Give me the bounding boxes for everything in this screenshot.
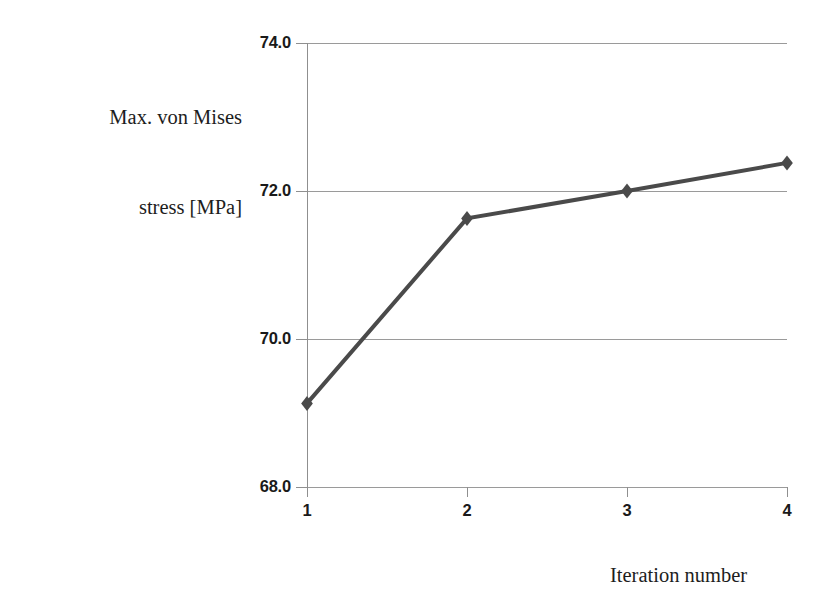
chart-container: Max. von Mises stress [MPa] 68.070.072.0…	[0, 0, 837, 613]
y-tick-mark-72.0	[296, 191, 307, 192]
x-tick-mark-4	[787, 487, 788, 497]
plot-area	[307, 43, 787, 487]
y-tick-mark-74.0	[296, 43, 307, 44]
x-tick-label-2: 2	[447, 501, 487, 520]
x-tick-mark-2	[467, 487, 468, 497]
y-tick-label-74.0: 74.0	[229, 33, 291, 52]
series-markers-group	[301, 155, 793, 411]
data-point-3	[621, 184, 633, 199]
x-tick-label-1: 1	[287, 501, 327, 520]
x-axis-title: Iteration number	[610, 562, 747, 588]
x-tick-mark-3	[627, 487, 628, 497]
x-tick-label-4: 4	[767, 501, 807, 520]
series-layer	[307, 43, 787, 487]
y-axis-title-line-1: Max. von Mises	[18, 102, 242, 132]
gridline-68.0	[307, 487, 787, 488]
series-line-max-von-mises-stress	[307, 163, 787, 404]
y-tick-mark-70.0	[296, 339, 307, 340]
y-tick-label-68.0: 68.0	[229, 477, 291, 496]
y-axis-title: Max. von Mises stress [MPa]	[18, 42, 242, 282]
y-axis-title-line-2: stress [MPa]	[18, 192, 242, 222]
data-point-4	[781, 155, 793, 170]
y-tick-mark-68.0	[296, 487, 307, 488]
x-tick-label-3: 3	[607, 501, 647, 520]
y-tick-label-72.0: 72.0	[229, 181, 291, 200]
y-tick-label-70.0: 70.0	[229, 329, 291, 348]
